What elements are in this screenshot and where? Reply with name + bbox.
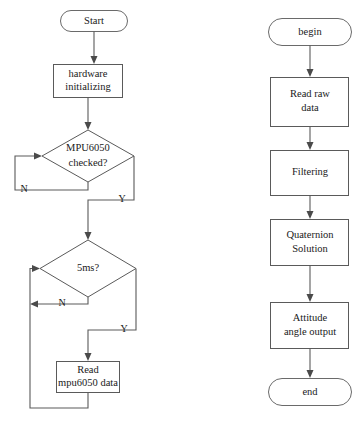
node-read-raw-data: Read raw data bbox=[271, 78, 349, 127]
attitude-label-line2: angle output bbox=[284, 326, 336, 337]
connector-attitude-to-end bbox=[307, 349, 314, 379]
node-mpu6050-check: MPU6050 checked? bbox=[42, 130, 134, 182]
arrow-head-icon bbox=[85, 232, 92, 240]
flowchart-canvas: Start hardware initializing MPU6050 chec… bbox=[0, 0, 364, 422]
connector-hardware-to-mpu-check bbox=[85, 98, 92, 131]
attitude-label-line1: Attitude bbox=[293, 312, 328, 323]
node-read-mpu6050-data: Read mpu6050 data bbox=[57, 362, 120, 393]
hardware-label-line2: initializing bbox=[65, 81, 111, 92]
arrow-head-icon bbox=[307, 294, 314, 302]
node-timer-check: 5ms? bbox=[40, 240, 136, 297]
mpu-decision-shape bbox=[42, 130, 134, 182]
quaternion-label-line2: Solution bbox=[292, 243, 328, 254]
connector-begin-to-read-raw bbox=[307, 46, 314, 78]
node-quaternion-solution: Quaternion Solution bbox=[271, 220, 349, 266]
read-mpu-label-line2: mpu6050 data bbox=[58, 377, 118, 388]
arrow-head-icon bbox=[91, 56, 98, 64]
arrow-head-icon bbox=[307, 370, 314, 378]
mpu-label-line1: MPU6050 bbox=[66, 142, 110, 153]
arrow-head-icon bbox=[85, 122, 92, 130]
connector-read-raw-to-filtering bbox=[307, 127, 314, 151]
end-label: end bbox=[302, 386, 318, 397]
timer-branch-label-no: N bbox=[58, 297, 65, 308]
read-raw-label-line2: data bbox=[301, 102, 319, 113]
read-mpu-label-line1: Read bbox=[77, 364, 99, 375]
node-attitude-angle-output: Attitude angle output bbox=[271, 303, 349, 349]
mpu-label-line2: checked? bbox=[68, 157, 107, 168]
connector-filtering-to-quaternion bbox=[307, 196, 314, 220]
connector-quaternion-to-attitude bbox=[307, 266, 314, 303]
quaternion-label-line1: Quaternion bbox=[286, 229, 334, 240]
arrow-head-icon bbox=[307, 69, 314, 77]
arrow-head-icon bbox=[307, 211, 314, 219]
node-start: Start bbox=[61, 11, 128, 32]
read-raw-label-line1: Read raw bbox=[290, 88, 330, 99]
node-filtering: Filtering bbox=[271, 151, 349, 196]
start-label: Start bbox=[84, 15, 104, 26]
connector-timer-no-loop: N bbox=[30, 297, 88, 308]
timer-label: 5ms? bbox=[77, 262, 100, 273]
arrow-head-icon bbox=[30, 301, 38, 308]
arrow-head-icon bbox=[32, 265, 40, 272]
filtering-label: Filtering bbox=[292, 166, 329, 177]
arrow-head-icon bbox=[34, 153, 42, 160]
node-begin: begin bbox=[269, 19, 352, 46]
begin-label: begin bbox=[298, 26, 322, 37]
mpu-branch-label-no: N bbox=[20, 183, 27, 194]
node-end: end bbox=[269, 379, 352, 406]
hardware-label-line1: hardware bbox=[68, 68, 107, 79]
arrow-head-icon bbox=[85, 353, 92, 361]
mpu-branch-label-yes: Y bbox=[118, 193, 125, 204]
timer-branch-label-yes: Y bbox=[120, 323, 127, 334]
arrow-head-icon bbox=[307, 142, 314, 150]
connector-start-to-hardware bbox=[91, 32, 98, 65]
flowchart-diagram: Start hardware initializing MPU6050 chec… bbox=[0, 0, 364, 422]
node-hardware-initializing: hardware initializing bbox=[54, 65, 123, 98]
